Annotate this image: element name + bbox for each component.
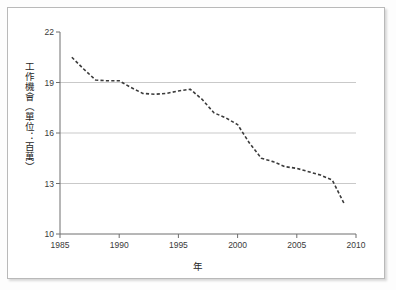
y-tick-group: 1013161922	[45, 27, 60, 239]
y-axis-title: 工作機會（單位：百萬）	[21, 62, 35, 172]
y-tick-label: 22	[45, 27, 55, 37]
x-tick-label: 2000	[228, 240, 247, 250]
x-tick-label: 2005	[287, 240, 306, 250]
gridlines-group	[60, 83, 356, 184]
data-series-line	[72, 57, 344, 203]
line-chart-svg: 1013161922 198519901995200020052010	[0, 0, 396, 290]
x-tick-label: 1995	[169, 240, 188, 250]
x-tick-label: 1985	[51, 240, 70, 250]
y-tick-label: 19	[45, 78, 55, 88]
x-tick-group: 198519901995200020052010	[51, 234, 366, 250]
y-tick-label: 10	[45, 229, 55, 239]
x-tick-label: 1990	[110, 240, 129, 250]
plot-area: 1013161922 198519901995200020052010	[0, 0, 396, 290]
chart-figure: 1013161922 198519901995200020052010 工作機會…	[0, 0, 396, 290]
x-axis-title: 年	[0, 259, 396, 273]
y-tick-label: 13	[45, 179, 55, 189]
x-tick-label: 2010	[347, 240, 366, 250]
y-tick-label: 16	[45, 128, 55, 138]
